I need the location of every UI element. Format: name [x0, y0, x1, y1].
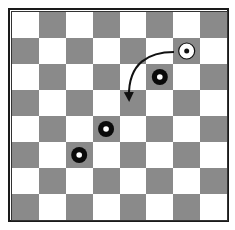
pieces-overlay	[0, 0, 235, 230]
black-piece-3[interactable]	[71, 147, 87, 163]
black-piece-1[interactable]	[152, 69, 168, 85]
black-piece-2[interactable]	[98, 121, 114, 137]
white-piece[interactable]	[179, 43, 195, 59]
